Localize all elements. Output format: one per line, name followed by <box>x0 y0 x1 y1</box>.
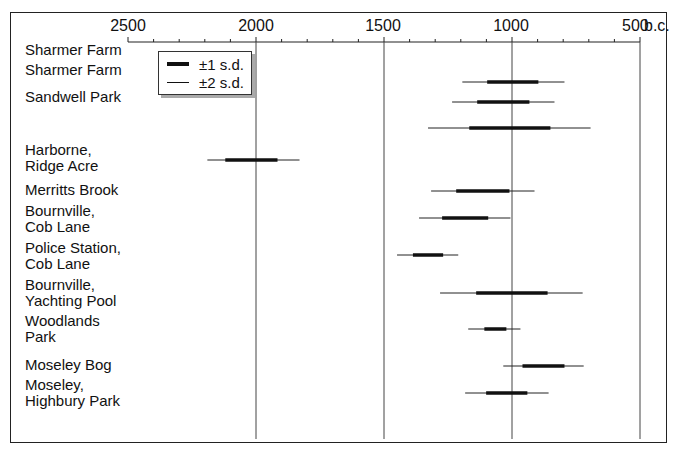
site-label-merritts-brook: Merritts Brook <box>25 182 118 198</box>
site-label-police-station-cob-lane: Police Station, Cob Lane <box>25 240 121 272</box>
site-label-sharmer-farm-1: Sharmer Farm <box>25 42 122 58</box>
legend-label-2sd: ±2 s.d. <box>199 74 244 91</box>
x-tick-label-2500: 2500 <box>110 17 146 35</box>
thin-line-swatch-icon <box>167 82 189 83</box>
legend-item-1sd: ±1 s.d. <box>167 55 244 73</box>
site-label-moseley-highbury-park: Moseley, Highbury Park <box>25 377 120 409</box>
site-label-bournville-yachting-pool: Bournville, Yachting Pool <box>25 277 116 309</box>
x-tick-label-1500: 1500 <box>365 17 401 35</box>
site-label-woodlands-park: Woodlands Park <box>25 313 100 345</box>
site-label-sandwell-park: Sandwell Park <box>25 89 121 105</box>
site-label-bournville-cob-lane: Bournville, Cob Lane <box>25 203 95 235</box>
x-tick-label-2000: 2000 <box>238 17 274 35</box>
x-tick-label-1000: 1000 <box>493 17 529 35</box>
thick-line-swatch-icon <box>167 62 189 66</box>
legend: ±1 s.d. ±2 s.d. <box>158 51 252 95</box>
x-axis-unit-label: b.c. <box>644 17 670 35</box>
site-label-harborne-ridge-acre: Harborne, Ridge Acre <box>25 142 98 174</box>
legend-label-1sd: ±1 s.d. <box>199 56 244 73</box>
legend-item-2sd: ±2 s.d. <box>167 73 244 91</box>
site-label-moseley-bog: Moseley Bog <box>25 357 112 373</box>
site-label-sharmer-farm-2: Sharmer Farm <box>25 62 122 78</box>
